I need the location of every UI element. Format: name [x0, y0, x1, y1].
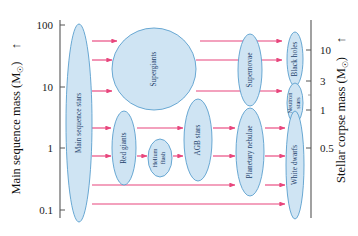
blob-label-helium-flash: Helium [151, 148, 158, 167]
blob-label-neutron-stars: Neutron [286, 92, 293, 114]
blob-label-planetary-nebulae: Planetary nebulae [246, 126, 254, 179]
left-axis-tick-label: 10 [42, 81, 54, 93]
blob-label-red-giants: Red giants [120, 132, 128, 164]
left-axis-tick-label: 100 [37, 19, 54, 31]
stellar-evolution-diagram: 1001010.110310.5 Main sequence starsSupe… [0, 0, 358, 236]
blob-label-agb-stars: AGB stars [194, 124, 202, 155]
blob-label-white-dwarfs: White dwarfs [291, 145, 299, 185]
right-axis-tick-label: 0.5 [320, 142, 334, 154]
left-axis-title: Main sequence mass (M☉) [9, 61, 25, 194]
blob-label-black-holes: Black holes [291, 41, 299, 76]
right-axis-tick-label: 10 [320, 44, 332, 56]
right-axis-title: Stellar corpse mass (M☉) [334, 57, 350, 183]
diagram-canvas: 1001010.110310.5 Main sequence starsSupe… [0, 0, 358, 236]
blob-label-supergiants: Supergiants [150, 51, 158, 86]
right-axis-title-direction-arrow-icon: ↑ [334, 37, 348, 43]
right-axis-tick-label: 1 [320, 104, 326, 116]
right-axis-tick-label: 3 [320, 75, 326, 87]
blob-label-supernovae: Supernovae [246, 53, 254, 88]
left-axis-tick-label: 0.1 [39, 204, 53, 216]
blob-label-helium-flash: flash [159, 151, 166, 164]
blob-label-main-sequence-stars: Main sequence stars [75, 93, 83, 153]
stage-blobs-group: Main sequence starsSupergiantsRed giants… [66, 24, 304, 222]
blob-label-neutron-stars: stars [294, 97, 301, 109]
left-axis-title-direction-arrow-icon: ↑ [9, 43, 23, 49]
left-axis-tick-label: 1 [48, 142, 54, 154]
